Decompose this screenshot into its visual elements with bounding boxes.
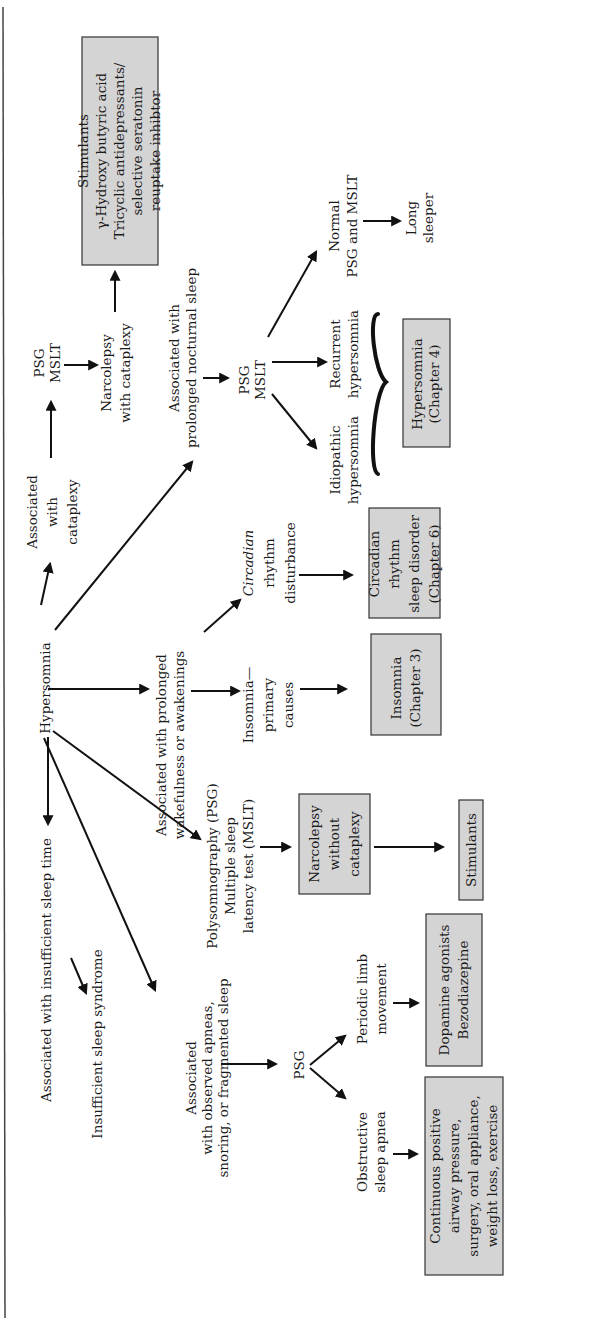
node-insufficient-sleep-time-text: Associated with insufficient sleep time <box>38 838 54 1103</box>
label-line: Circadian <box>366 530 382 597</box>
label-line: γ-Hydroxy butyric acid <box>93 72 109 229</box>
node-normal-psg-mslt: NormalPSG and MSLT <box>326 174 360 277</box>
label-line: wakefulness or awakenings <box>171 651 187 840</box>
label-line: latency test (MSLT) <box>240 799 256 934</box>
label-line: Long <box>403 200 419 235</box>
label-line: with observed apneas, <box>199 1001 215 1155</box>
label-line: reuptake inhibtor <box>147 90 163 211</box>
node-insomnia-primary-causes-text: Insomnia—primarycauses <box>240 667 296 743</box>
label-line: Hypersomnia <box>37 642 53 733</box>
label-line: MSLT <box>47 343 63 383</box>
node-insufficient-sleep-syndrome-text: Insufficient sleep syndrome <box>89 949 105 1138</box>
label-line: Multiple sleep <box>222 817 238 915</box>
label-line: Dopamine agonists <box>436 925 452 1056</box>
label-line: Associated with prolonged <box>153 654 169 837</box>
node-hypersomnia: Hypersomnia <box>37 642 53 733</box>
label-line: Normal <box>326 200 342 252</box>
node-prolonged-nocturnal-sleep: Associated withprolonged nocturnal sleep <box>166 268 199 448</box>
label-line: selective seratonin <box>129 86 145 215</box>
label-line: MSLT <box>252 360 268 400</box>
label-line: rhythm <box>261 538 277 588</box>
node-associated-with-cataplexy-text: Associatedwithcataplexy <box>24 475 80 550</box>
label-line: hypersomnia <box>345 310 361 398</box>
node-insufficient-sleep-syndrome: Insufficient sleep syndrome <box>89 949 105 1138</box>
node-recurrent-hypersomnia-text: Recurrenthypersomnia <box>327 310 361 398</box>
label-line: PSG <box>291 1050 307 1079</box>
label-line: Polysomnography (PSG) <box>204 783 220 948</box>
node-narcolepsy-with-cataplexy-text: Narcolepsywith cataplexy <box>98 323 133 423</box>
label-line: Recurrent <box>327 319 343 389</box>
node-polysomnography-mslt-text: Polysomnography (PSG)Multiple sleeplaten… <box>204 783 256 948</box>
label-line: Bezodiazepine <box>455 941 471 1040</box>
node-prolonged-wakefulness-text: Associated with prolongedwakefulness or … <box>153 651 187 840</box>
label-line: Obstructive <box>354 1112 370 1192</box>
page-border-rule <box>3 7 5 1318</box>
label-line: weight loss, exercise <box>484 1105 500 1248</box>
label-line: sleeper <box>420 192 436 243</box>
node-long-sleeper-text: Longsleeper <box>403 192 436 243</box>
node-idiopathic-hypersomnia: Idiopathichypersomnia <box>327 416 361 504</box>
label-line: cataplexy <box>346 811 362 877</box>
label-line: disturbance <box>282 522 298 603</box>
label-line: movement <box>373 963 389 1035</box>
label-line: Stimulants <box>463 813 479 887</box>
node-insufficient-sleep-time: Associated with insufficient sleep time <box>38 838 54 1103</box>
node-prolonged-wakefulness: Associated with prolongedwakefulness or … <box>153 651 187 840</box>
label-line: with <box>44 497 60 527</box>
label-line: prolonged nocturnal sleep <box>183 268 199 448</box>
node-obstructive-sleep-apnea-text: Obstructivesleep apnea <box>354 1111 388 1193</box>
label-line: PSG and MSLT <box>344 174 360 277</box>
node-recurrent-hypersomnia: Recurrenthypersomnia <box>327 310 361 398</box>
node-periodic-limb-movement: Periodic limbmovement <box>354 954 389 1044</box>
label-line: surgery, oral appliance, <box>465 1095 481 1256</box>
label-line: without <box>326 817 342 870</box>
label-line: with cataplexy <box>117 323 133 423</box>
arrow-to-obstructive-apnea <box>310 1068 345 1098</box>
node-circadian-disturbance: Circadianrhythmdisturbance <box>240 522 298 603</box>
arrow-to-insufficient-syndrome <box>71 958 86 993</box>
label-line: sleep apnea <box>372 1111 388 1193</box>
node-stimulants: Stimulants <box>463 813 479 887</box>
node-prolonged-nocturnal-sleep-text: Associated withprolonged nocturnal sleep <box>166 268 199 448</box>
node-hypersomnia-text: Hypersomnia <box>37 642 53 733</box>
label-line: Associated with insufficient sleep time <box>38 838 54 1103</box>
node-insomnia-primary-causes: Insomnia—primarycauses <box>240 667 296 743</box>
label-line: primary <box>260 677 276 732</box>
label-line: Hypersomnia <box>409 338 425 429</box>
label-line: airway pressure, <box>446 1119 462 1234</box>
label-line: Periodic limb <box>354 954 370 1044</box>
node-polysomnography-mslt: Polysomnography (PSG)Multiple sleeplaten… <box>204 783 256 948</box>
label-line: Associated <box>24 475 40 550</box>
arrow-to-idiopathic <box>272 394 316 448</box>
node-psg-mslt-nocturnal-text: PSGMSLT <box>236 360 268 400</box>
box-insomnia-chapter3 <box>371 634 441 735</box>
box-dopamine-agonists <box>426 914 482 1066</box>
node-psg-mslt-cataplexy-text: PSGMSLT <box>31 343 63 383</box>
label-line: Insomnia— <box>240 667 256 743</box>
label-line: cataplexy <box>64 479 80 545</box>
node-observed-apneas: Associatedwith observed apneas,snoring, … <box>183 978 231 1177</box>
label-line: Circadian <box>240 530 256 596</box>
label-line: rhythm <box>386 539 402 589</box>
node-idiopathic-hypersomnia-text: Idiopathichypersomnia <box>327 416 361 504</box>
node-psg-mslt-nocturnal: PSGMSLT <box>236 360 268 400</box>
label-line: PSG <box>236 365 252 394</box>
label-line: hypersomnia <box>345 416 361 504</box>
node-psg-mslt-cataplexy: PSGMSLT <box>31 343 63 383</box>
node-psg-apnea-text: PSG <box>291 1050 307 1079</box>
arrow-to-cataplexy <box>41 564 50 605</box>
label-line: (Chapter 4) <box>426 345 442 424</box>
label-line: PSG <box>31 348 47 377</box>
node-stimulants-text: Stimulants <box>463 813 479 887</box>
label-line: Associated with <box>166 304 182 413</box>
node-narcolepsy-with-cataplexy: Narcolepsywith cataplexy <box>98 323 133 423</box>
label-line: Stimulants <box>75 114 91 188</box>
node-hypersomnia-chapter4: Hypersomnia(Chapter 4) <box>409 338 442 429</box>
label-line: causes <box>280 682 296 728</box>
node-periodic-limb-movement-text: Periodic limbmovement <box>354 954 389 1044</box>
label-line: (Chapter 3) <box>407 649 423 728</box>
node-circadian-disturbance-text: Circadianrhythmdisturbance <box>240 522 298 603</box>
hypersomnia-flowchart: HypersomniaAssociated with insufficient … <box>0 0 603 1327</box>
node-obstructive-sleep-apnea: Obstructivesleep apnea <box>354 1111 388 1193</box>
node-hypersomnia-chapter4-text: Hypersomnia(Chapter 4) <box>409 338 442 429</box>
